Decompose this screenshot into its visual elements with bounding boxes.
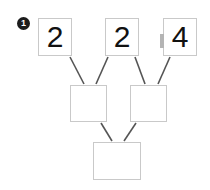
edge-d-f — [101, 123, 112, 141]
node-box-d[interactable] — [70, 85, 107, 122]
diagram-canvas: 1 2 2 4 — [0, 0, 210, 190]
node-box-f[interactable] — [93, 142, 141, 180]
step-number-badge: 1 — [17, 17, 30, 30]
edge-b-e — [135, 57, 145, 84]
edge-e-f — [124, 123, 136, 141]
node-box-b[interactable]: 2 — [105, 18, 139, 56]
edge-c-e — [158, 57, 170, 84]
left-edge-marker — [160, 34, 164, 48]
edge-a-d — [70, 57, 84, 84]
node-box-a[interactable]: 2 — [38, 18, 72, 56]
node-box-c[interactable]: 4 — [163, 18, 197, 56]
edge-b-d — [96, 57, 108, 84]
node-box-e[interactable] — [130, 85, 167, 122]
